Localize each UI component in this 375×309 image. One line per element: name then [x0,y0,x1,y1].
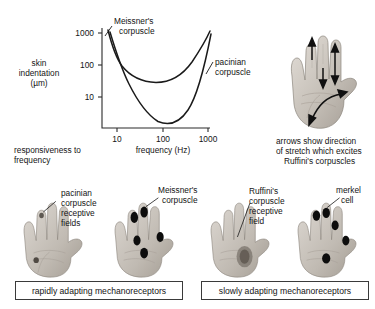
caption-rapidly-adapting: rapidly adapting mechanoreceptors [15,281,183,300]
xtick-10: 10 [112,134,122,144]
hand-merkel-cell [290,196,366,278]
receptor-oval [133,236,140,246]
responsiveness-chart: 1000 100 10 10 100 1000 skin indentation… [20,14,235,154]
receptor-oval [131,212,138,223]
annotation-ruffini-line1: Ruffini's [249,186,278,196]
annotation-pacinian-rf-line1: pacinian [61,188,92,198]
receptor-oval [140,207,147,218]
caption-slowly-adapting: slowly adapting mechanoreceptors [201,281,369,300]
annotation-meissner-hand-line2: corpuscle [162,195,198,205]
stretch-caption-line3: Ruffini's corpuscles [284,156,355,166]
annotation-pacinian-rf-line3: receptive [61,208,95,218]
xtick-1000: 1000 [199,134,218,144]
receptor-oval [313,210,320,220]
annotation-merkel-line2: cell [341,195,353,205]
yaxis-label-line2: indentation [4,68,74,78]
chart-caption-line2: frequency [14,155,50,165]
annotation-ruffini-line4: field [249,216,264,226]
stretch-hand-image [282,22,366,132]
xtick-100: 100 [156,134,170,144]
receptor-oval [322,208,329,218]
chart-caption-line1: responsiveness to [14,145,81,155]
annotation-ruffini-line3: receptive [249,206,283,216]
annotation-merkel-line1: merkel [336,185,361,195]
annotation-pacinian-line2: corpuscle [215,67,251,77]
leader-line [327,198,339,208]
annotation-pacinian-rf-line4: fields [61,218,80,228]
annotation-meissner-line2: corpuscle [119,26,155,36]
hand-meissner-corpuscle [107,196,183,278]
figure-root: 1000 100 10 10 100 1000 skin indentation… [0,0,375,309]
ytick-1000: 1000 [75,28,94,38]
receptor-oval [342,236,349,246]
stretch-caption-line2: of stretch which excites [276,146,362,156]
receptor-spot [34,257,39,263]
leader-line [146,198,158,207]
receptor-oval [322,253,330,263]
receptor-oval [140,248,148,259]
xaxis-label: frequency (Hz) [118,145,208,155]
ytick-100: 100 [80,60,94,70]
annotation-pacinian-rf-line2: corpuscle [61,198,97,208]
receptor-oval [157,232,164,242]
hand-image-meissner [107,196,183,278]
annotation-ruffini-line2: corpuscle [249,196,285,206]
annotation-meissner-hand-line1: Meissner's [158,185,197,195]
yaxis-label-line3: (µm) [4,78,74,88]
stretch-caption-line1: arrows show direction [276,136,356,146]
stretch-hand-panel [282,22,366,132]
annotation-meissner-line1: Meissner's [114,16,153,26]
receptor-spot [39,213,44,219]
annotation-pacinian-line1: pacinian [215,57,246,67]
receptor-oval [332,221,339,231]
ytick-10: 10 [85,92,95,102]
hand-image-merkel [290,196,366,278]
yaxis-label-line1: skin [4,58,74,68]
receptor-field-core [240,249,250,263]
